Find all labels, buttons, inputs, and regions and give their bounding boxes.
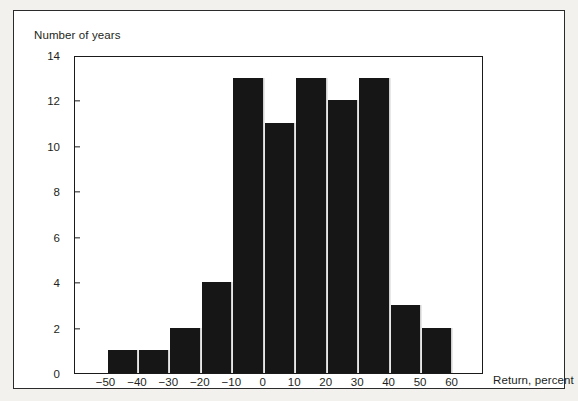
y-tick-label: 0 <box>54 368 60 380</box>
x-tick-label: 30 <box>351 376 364 388</box>
y-tick-mark <box>74 237 80 238</box>
y-tick-label: 14 <box>47 50 60 62</box>
y-tick-label: 6 <box>54 232 60 244</box>
y-axis-ticks: 02468101214 <box>14 56 68 374</box>
x-tick-label: −20 <box>190 376 210 388</box>
histogram-bar <box>233 78 262 373</box>
y-tick-mark <box>74 101 80 102</box>
x-tick-label: 60 <box>445 376 458 388</box>
histogram-bar <box>170 328 199 373</box>
plot-frame <box>74 56 483 374</box>
y-tick-label: 12 <box>47 95 60 107</box>
x-tick-label: 10 <box>288 376 301 388</box>
x-tick-label: −30 <box>159 376 179 388</box>
x-tick-label: −50 <box>96 376 116 388</box>
y-tick-label: 10 <box>47 141 60 153</box>
x-tick-label: −40 <box>127 376 147 388</box>
x-tick-label: 40 <box>382 376 395 388</box>
histogram-bar <box>108 350 137 373</box>
y-axis-caption: Number of years <box>34 29 121 41</box>
histogram-bar <box>391 305 420 373</box>
y-tick-label: 8 <box>54 186 60 198</box>
x-tick-label: 20 <box>319 376 332 388</box>
y-tick-mark <box>74 192 80 193</box>
x-tick-label: −10 <box>222 376 242 388</box>
y-tick-mark <box>74 146 80 147</box>
y-tick-label: 4 <box>54 277 60 289</box>
x-tick-label: 50 <box>414 376 427 388</box>
histogram-bar <box>202 282 231 373</box>
plot-area <box>75 57 482 373</box>
histogram-bar <box>328 100 357 373</box>
x-axis-caption: Return, percent <box>493 374 574 386</box>
figure-container: Number of years Return, percent 02468101… <box>13 10 565 389</box>
histogram-bar <box>359 78 388 373</box>
y-tick-mark <box>74 282 80 283</box>
histogram-bar <box>265 123 294 373</box>
y-tick-mark <box>74 328 80 329</box>
y-tick-label: 2 <box>54 323 60 335</box>
histogram-bar <box>422 328 451 373</box>
x-tick-label: 0 <box>260 376 266 388</box>
histogram-bar <box>139 350 168 373</box>
histogram-bar <box>296 78 325 373</box>
